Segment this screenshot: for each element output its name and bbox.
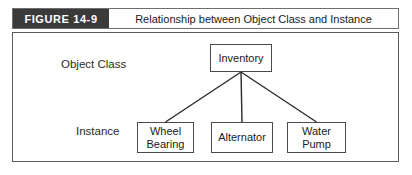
node-water-pump: Water Pump	[287, 122, 346, 153]
figure-container: FIGURE 14-9 Relationship between Object …	[0, 0, 412, 175]
connector-inventory-water-pump	[241, 72, 317, 122]
node-wheel-bearing: Wheel Bearing	[137, 122, 194, 153]
node-inventory-label: Inventory	[218, 52, 263, 65]
figure-number-tag: FIGURE 14-9	[13, 9, 109, 28]
node-water-pump-line2: Pump	[302, 138, 331, 151]
row-label-instance: Instance	[76, 125, 119, 137]
node-alternator: Alternator	[211, 122, 273, 153]
node-alternator-label: Alternator	[218, 131, 266, 144]
connector-inventory-alternator	[241, 72, 242, 122]
node-water-pump-line1: Water	[302, 125, 331, 137]
row-label-object-class: Object Class	[61, 58, 126, 70]
figure-header: FIGURE 14-9 Relationship between Object …	[12, 8, 399, 29]
node-water-pump-label: Water Pump	[302, 125, 331, 150]
node-wheel-bearing-line1: Wheel	[150, 125, 181, 137]
connector-inventory-wheel-bearing	[166, 72, 242, 122]
diagram-panel: Object Class Instance Inventory Wheel Be…	[12, 32, 399, 162]
node-inventory: Inventory	[210, 44, 272, 72]
node-wheel-bearing-line2: Bearing	[147, 138, 185, 151]
node-wheel-bearing-label: Wheel Bearing	[147, 125, 185, 150]
figure-title: Relationship between Object Class and In…	[109, 9, 398, 28]
